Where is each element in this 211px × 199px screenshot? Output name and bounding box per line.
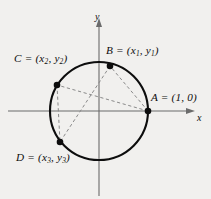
y-axis-label: y [95,12,100,22]
point-d [57,139,64,146]
label-a-name: A [151,91,158,103]
x-axis-label: x [197,113,202,123]
chord-b-d [60,66,110,142]
label-d-eq-open: = (x [24,151,47,163]
chord-c-d [57,85,60,142]
point-b [107,63,114,70]
label-point-a: A = (1, 0) [151,92,197,103]
label-point-d: D = (x3, y3) [16,152,70,164]
label-d-close: ) [66,151,70,163]
label-point-b: B = (x1, y1) [106,45,159,57]
label-c-name: C [14,52,22,64]
label-b-mid: , y [140,44,151,56]
label-b-name: B [106,44,113,56]
label-b-eq-open: = (x [113,44,136,56]
point-a [145,108,152,115]
x-axis [8,108,195,114]
chord-a-c [57,85,148,111]
label-c-mid: , y [48,52,59,64]
point-c [54,82,61,89]
label-c-close: ) [63,52,67,64]
y-axis [96,18,102,196]
unit-circle-figure: A = (1, 0) B = (x1, y1) C = (x2, y2) D =… [0,0,211,199]
label-d-mid: , y [51,151,62,163]
label-point-c: C = (x2, y2) [14,53,67,65]
label-c-eq-open: = (x [22,52,45,64]
label-b-close: ) [155,44,159,56]
label-a-eq: = (1, 0) [158,91,197,103]
